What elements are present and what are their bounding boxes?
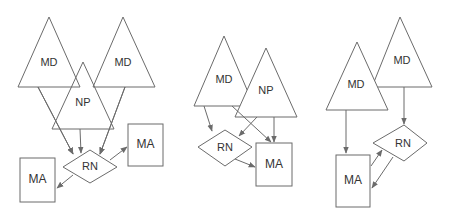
md-label: MD [215, 73, 232, 85]
md-right-triangle[interactable] [93, 17, 155, 87]
np-label: NP [258, 84, 273, 96]
md-left-label: MD [347, 78, 364, 90]
edge-rn-to-ma [372, 157, 393, 188]
edge-rn-to-ma [235, 159, 255, 167]
md-left-label: MD [40, 56, 57, 68]
md-left-triangle[interactable] [18, 17, 80, 87]
rn-label: RN [395, 137, 411, 149]
ma-label: MA [344, 173, 362, 187]
ma-label: MA [265, 157, 283, 171]
panel-3: MD MD RN MA [326, 17, 432, 207]
rn-label: RN [217, 141, 233, 153]
ma-left-label: MA [29, 172, 47, 186]
np-label: NP [75, 96, 90, 108]
edge-np-to-rn [80, 129, 81, 153]
panel-2: MD NP RN MA [194, 36, 297, 186]
diagram-canvas: MD MD NP RN MA MA MD NP RN MA [0, 0, 449, 216]
md-right-triangle[interactable] [372, 17, 432, 87]
ma-right-label: MA [137, 137, 155, 151]
edge-ma-to-rn [371, 150, 382, 166]
md-right-label: MD [393, 54, 410, 66]
panel-1: MD MD NP RN MA MA [18, 17, 163, 202]
edge-rn-to-ma-left [57, 175, 73, 188]
md-right-label: MD [114, 56, 131, 68]
rn-label: RN [82, 160, 98, 172]
edge-rn-to-ma-right [110, 147, 127, 160]
edge-md-to-rn [204, 106, 212, 131]
